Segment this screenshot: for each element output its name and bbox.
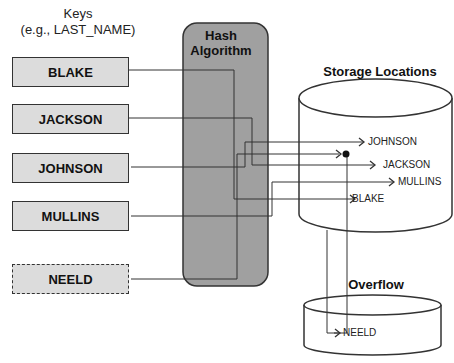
- slot-neeld: NEELD: [343, 327, 376, 338]
- hash-title-line1: Hash: [182, 28, 260, 43]
- slot-johnson: JOHNSON: [368, 136, 417, 147]
- hash-title: Hash Algorithm: [182, 28, 260, 58]
- storage-title: Storage Locations: [312, 64, 448, 79]
- key-label: MULLINS: [42, 209, 100, 224]
- slot-jackson: JACKSON: [383, 159, 430, 170]
- storage-cylinder: [299, 79, 452, 232]
- key-label: JACKSON: [39, 112, 103, 127]
- slot-mullins: MULLINS: [398, 176, 441, 187]
- key-label: NEELD: [48, 272, 92, 287]
- hash-title-line2: Algorithm: [182, 43, 260, 58]
- collision-dot: [343, 151, 350, 158]
- key-neeld: NEELD: [12, 264, 129, 294]
- slot-blake: BLAKE: [352, 193, 384, 204]
- key-blake: BLAKE: [12, 57, 129, 87]
- keys-title-line2: (e.g., LAST_NAME): [8, 22, 148, 38]
- overflow-cylinder: [304, 295, 441, 355]
- key-jackson: JACKSON: [12, 104, 129, 134]
- key-label: JOHNSON: [38, 161, 102, 176]
- key-label: BLAKE: [48, 65, 93, 80]
- keys-title-line1: Keys: [8, 6, 148, 22]
- key-mullins: MULLINS: [12, 201, 129, 231]
- key-johnson: JOHNSON: [12, 153, 129, 183]
- keys-title: Keys (e.g., LAST_NAME): [8, 6, 148, 38]
- overflow-title: Overflow: [336, 277, 416, 292]
